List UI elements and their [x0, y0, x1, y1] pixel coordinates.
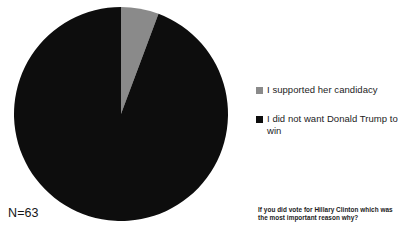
legend-swatch-gray [256, 87, 263, 94]
pie-chart-figure: N=63 I supported her candidacy I did not… [0, 0, 401, 245]
legend-item-supported-her-candidacy[interactable]: I supported her candidacy [256, 84, 401, 97]
legend-swatch-black [256, 116, 263, 123]
chart-legend: I supported her candidacy I did not want… [256, 84, 401, 154]
legend-label-supported-her-candidacy: I supported her candidacy [267, 84, 378, 97]
legend-label-did-not-want-trump: I did not want Donald Trump to win [267, 113, 401, 138]
chart-caption-question: If you did vote for Hillary Clinton whic… [258, 206, 398, 222]
sample-size-label: N=63 [8, 206, 39, 220]
legend-item-did-not-want-trump[interactable]: I did not want Donald Trump to win [256, 113, 401, 138]
